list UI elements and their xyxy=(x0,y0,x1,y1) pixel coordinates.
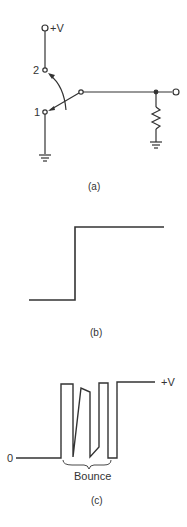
resistor-icon xyxy=(152,107,160,129)
panel-b-caption: (b) xyxy=(90,327,102,338)
switch-bounce-figure: +V 2 1 (a) (b) 0 +V Bounce (c) xyxy=(0,0,187,527)
supply-label: +V xyxy=(50,22,64,34)
contact-1-label: 1 xyxy=(34,106,40,118)
arrowhead-icon xyxy=(48,106,55,111)
ground-icon xyxy=(39,155,51,161)
panel-a-caption: (a) xyxy=(88,181,100,192)
high-label: +V xyxy=(161,376,175,388)
bounce-waveform xyxy=(16,382,155,458)
contact-2 xyxy=(43,68,47,72)
ground-icon xyxy=(150,142,162,148)
ideal-step-waveform xyxy=(29,227,164,300)
supply-terminal xyxy=(42,25,48,31)
bounce-brace xyxy=(63,460,111,469)
panel-c-caption: (c) xyxy=(91,495,103,506)
zero-label: 0 xyxy=(7,452,13,464)
contact-1 xyxy=(43,110,47,114)
switch-pivot xyxy=(79,90,83,94)
panel-a-circuit xyxy=(39,25,179,161)
output-terminal xyxy=(173,89,179,95)
contact-2-label: 2 xyxy=(33,64,39,76)
bounce-label: Bounce xyxy=(74,470,111,482)
